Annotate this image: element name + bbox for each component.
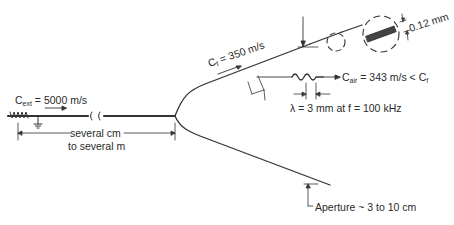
sound-wave-icon [292,74,323,80]
wavelength-label: λ = 3 mm at f = 100 kHz [290,103,401,114]
fiber-shaft [8,112,175,120]
sensor-diagram: Cext = 5000 m/s several cm to several m … [0,0,454,225]
length-line2: to several m [68,141,125,152]
ext-speed-label: Cext = 5000 m/s [15,95,87,106]
air-speed-label: Cair = 343 m/s < Cf [342,72,428,83]
aperture-label: Aperture ~ 3 to 10 cm [315,202,416,213]
ground-icon [34,116,42,128]
detail-circle-small [327,33,345,51]
length-line1: several cm [70,128,121,139]
